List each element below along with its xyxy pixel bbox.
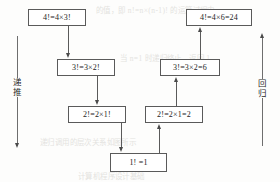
connector-right-3-arrowhead [157, 124, 161, 129]
connector-right-2-stem [176, 82, 177, 106]
diagram-canvas: 的值，即 n!=n×(n-1)! 的运算过程中 当 n=1 时递归终止，返回 1… [0, 0, 280, 182]
connector-right-1-arrowhead [198, 27, 202, 32]
connector-left-2-stem [97, 76, 98, 101]
connector-left-3-stem [121, 123, 122, 148]
node-right-level2: 3!=3×2=6 [160, 59, 220, 76]
node-left-level1: 4!=4×3! [28, 9, 86, 26]
right-axis-arrowhead [260, 33, 264, 38]
right-axis-label: 回归 [257, 79, 268, 98]
connector-left-3-arrowhead [119, 147, 123, 152]
node-base-case: 1! =1 [110, 153, 167, 172]
connector-right-2-arrowhead [174, 77, 178, 82]
node-right-level3: 2!=2×1=2 [145, 106, 203, 123]
connector-left-1-stem [68, 26, 69, 54]
connector-right-3-stem [159, 129, 160, 153]
node-left-level3: 2!=2×1! [68, 106, 126, 123]
node-left-level2: 3!=3×2! [57, 59, 115, 76]
left-axis-arrowhead [15, 143, 19, 148]
connector-left-2-arrowhead [95, 100, 99, 105]
left-axis-label: 递推 [12, 78, 23, 97]
connector-left-1-arrowhead [66, 53, 70, 58]
node-right-level1: 4!=4×6=24 [186, 9, 252, 26]
connector-right-1-stem [200, 32, 201, 59]
